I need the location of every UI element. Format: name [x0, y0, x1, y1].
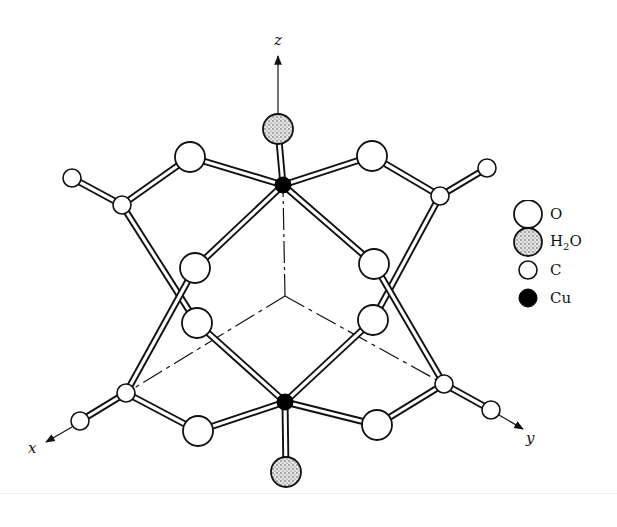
carbon-atom: [113, 196, 131, 214]
bond: [195, 185, 283, 268]
oxygen-symbol-icon: [512, 200, 546, 228]
oxygen-atom: [359, 249, 389, 279]
copper-atom: [277, 394, 293, 410]
y-axis-label: y: [525, 429, 535, 447]
x-axis-arrow: [46, 427, 72, 442]
legend-label-oxygen: O: [550, 205, 562, 223]
legend-item-oxygen: O: [512, 200, 612, 228]
copper-symbol-icon: [512, 286, 546, 310]
oxygen-atom: [180, 253, 210, 283]
oxygen-atom: [183, 416, 213, 446]
legend: O H2O C Cu: [512, 200, 612, 312]
bond: [197, 323, 285, 402]
legend-label-carbon: C: [550, 261, 561, 279]
carbon-symbol-icon: [512, 258, 546, 282]
copper-atom: [275, 177, 291, 193]
bond: [283, 185, 374, 264]
oxygen-atom: [175, 142, 205, 172]
z-axis-label: z: [273, 31, 282, 49]
oxygen-atom: [182, 308, 212, 338]
oxygen-atom: [357, 141, 387, 171]
carbon-atom: [71, 412, 89, 430]
x-axis-label: x: [28, 439, 37, 457]
oxygen-atom: [362, 410, 392, 440]
carbon-atom: [431, 187, 449, 205]
water-molecule: [263, 114, 293, 144]
water-symbol-icon: [512, 227, 546, 257]
carbon-atom: [478, 159, 496, 177]
page-edge-line: [0, 493, 617, 494]
bond: [285, 320, 373, 402]
carbon-atom: [117, 384, 135, 402]
oxygen-atom: [358, 305, 388, 335]
carbon-atom: [482, 401, 500, 419]
legend-item-carbon: C: [512, 256, 612, 284]
carbon-atom: [63, 169, 81, 187]
legend-label-water: H2O: [550, 232, 582, 252]
y-axis-arrow: [499, 415, 523, 429]
water-molecule: [271, 457, 301, 487]
legend-label-copper: Cu: [550, 289, 571, 307]
z-axis-dashed: [283, 188, 285, 296]
legend-item-copper: Cu: [512, 284, 612, 312]
legend-item-water: H2O: [512, 228, 612, 256]
carbon-atom: [435, 375, 453, 393]
